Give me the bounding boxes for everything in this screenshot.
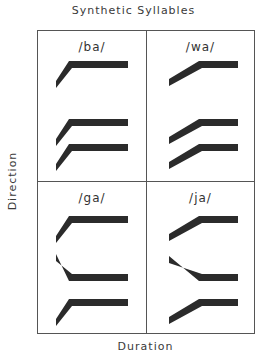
formant-pattern	[56, 61, 128, 88]
formant-pattern	[56, 216, 128, 243]
formant-pattern	[169, 216, 238, 241]
panel-label: /ga/	[78, 191, 105, 205]
panel-label: /ba/	[78, 40, 105, 54]
panel-label: /ja/	[189, 191, 212, 205]
syllable-grid: /ba//wa//ga//ja/	[0, 0, 267, 355]
panel-label: /wa/	[186, 40, 215, 54]
formant-pattern	[169, 144, 238, 169]
formant-pattern	[169, 119, 238, 144]
formant-pattern	[56, 119, 128, 146]
formant-pattern	[169, 61, 238, 86]
formant-pattern	[169, 299, 238, 324]
formant-pattern	[56, 144, 128, 171]
formant-pattern	[169, 256, 238, 281]
formant-pattern	[56, 254, 128, 281]
formant-pattern	[56, 299, 128, 326]
